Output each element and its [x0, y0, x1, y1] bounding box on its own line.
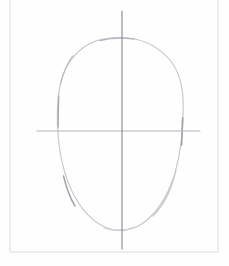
guideline-group [37, 11, 200, 249]
pencil-accent-group [58, 38, 183, 230]
left-edge-dark-segment [58, 96, 59, 127]
lower-left-dark-segment [64, 176, 76, 206]
sketch-canvas [0, 0, 229, 266]
pencil-sketch [0, 0, 229, 266]
lower-right-segment [153, 170, 176, 216]
